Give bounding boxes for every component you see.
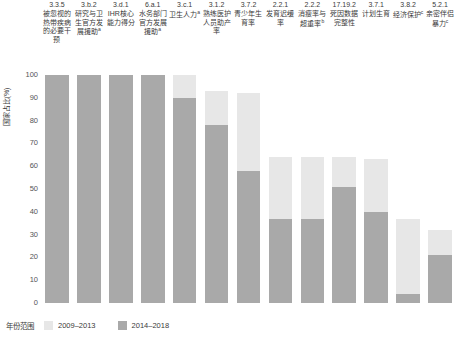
bar-column[interactable]: [45, 75, 69, 303]
category-label: 卫生人力a: [169, 10, 201, 20]
y-axis-tick: 20: [14, 253, 38, 261]
bar-column[interactable]: [332, 75, 356, 303]
category-label: 青少年生育率: [233, 10, 265, 27]
category-header[interactable]: 3.c.1卫生人力a: [169, 0, 201, 20]
y-axis-tick-labels: 1009080706050403020100: [14, 69, 38, 309]
category-header[interactable]: 3.d.1IHR核心能力得分: [105, 0, 137, 27]
y-axis-tick: 90: [14, 94, 38, 102]
category-code: 3.b.2: [73, 0, 105, 9]
category-code: 3.8.2: [392, 0, 424, 9]
bar-segment-2014-2018: [428, 255, 452, 303]
category-code: 3.7.1: [360, 0, 392, 9]
bar-column[interactable]: [269, 75, 293, 303]
bar-column[interactable]: [173, 75, 197, 303]
category-label: 水务部门官方发展援助a: [137, 10, 169, 37]
category-header[interactable]: 3.8.2经济保护c: [392, 0, 424, 20]
category-header[interactable]: 5.2.1亲密伴侣暴力c: [424, 0, 456, 29]
legend-swatch-late-icon: [118, 321, 127, 330]
legend: 年份范围 2009–2013 2014–2018: [6, 318, 191, 332]
bar-segment-2014-2018: [396, 294, 420, 303]
category-header[interactable]: 6.a.1水务部门官方发展援助a: [137, 0, 169, 37]
category-label: 发育迟缓率: [264, 10, 296, 27]
bar-column[interactable]: [141, 75, 165, 303]
bar-segment-2014-2018: [173, 98, 197, 303]
bar-segment-2014-2018: [269, 219, 293, 303]
category-label: IHR核心能力得分: [105, 10, 137, 27]
bar-segment-2009-2013: [332, 157, 356, 187]
bar-segment-2014-2018: [237, 171, 261, 303]
bar-segment-2009-2013: [237, 93, 261, 171]
footnote-marker: a: [98, 26, 101, 32]
legend-swatch-early-icon: [44, 321, 53, 330]
category-code: 5.2.1: [424, 0, 456, 9]
category-code: 3.c.1: [169, 0, 201, 9]
y-axis-tick: 30: [14, 231, 38, 239]
bar-segment-2009-2013: [173, 75, 197, 98]
category-code: 3.7.2: [233, 0, 265, 9]
category-code: 3.1.2: [201, 0, 233, 9]
category-code: 3.d.1: [105, 0, 137, 9]
y-axis-tick: 80: [14, 117, 38, 125]
category-header[interactable]: 17.19.2死因数据完整性: [328, 0, 360, 27]
legend-item-early[interactable]: 2009–2013: [44, 321, 96, 330]
category-header[interactable]: 3.b.2研究与卫生官方发展援助a: [73, 0, 105, 37]
bar-segment-2009-2013: [428, 230, 452, 255]
y-axis-tick: 100: [14, 71, 38, 79]
y-axis-tick: 60: [14, 162, 38, 170]
category-header[interactable]: 3.1.2熟练医护人员助产率: [201, 0, 233, 36]
category-header[interactable]: 2.2.1发育迟缓率: [264, 0, 296, 27]
footnote-marker: c: [446, 18, 449, 24]
footnote-marker: b: [321, 18, 324, 24]
category-label: 研究与卫生官方发展援助a: [73, 10, 105, 37]
category-header[interactable]: 2.2.2消瘦率与超重率b: [296, 0, 328, 29]
bar-segment-2014-2018: [332, 187, 356, 303]
category-header[interactable]: 3.7.2青少年生育率: [233, 0, 265, 27]
category-label: 消瘦率与超重率b: [296, 10, 328, 29]
bar-segment-2009-2013: [301, 157, 325, 219]
legend-item-late[interactable]: 2014–2018: [118, 321, 170, 330]
category-headers: 3.3.5被忽视的热带疾病的必要干预3.b.2研究与卫生官方发展援助a3.d.1…: [41, 0, 456, 73]
category-code: 17.19.2: [328, 0, 360, 9]
bar-segment-2009-2013: [269, 157, 293, 219]
category-code: 6.a.1: [137, 0, 169, 9]
category-label: 被忽视的热带疾病的必要干预: [41, 10, 73, 44]
bar-column[interactable]: [77, 75, 101, 303]
y-axis-tick: 0: [14, 299, 38, 307]
bar-column[interactable]: [428, 75, 452, 303]
bar-column[interactable]: [396, 75, 420, 303]
footnote-marker: a: [158, 26, 161, 32]
legend-label-early: 2009–2013: [58, 321, 96, 330]
bar-segment-2014-2018: [45, 75, 69, 303]
category-label: 计划生育: [360, 10, 392, 19]
bar-segment-2014-2018: [205, 125, 229, 303]
bar-segment-2014-2018: [301, 219, 325, 303]
category-code: 2.2.2: [296, 0, 328, 9]
category-code: 2.2.1: [264, 0, 296, 9]
legend-title: 年份范围: [6, 320, 34, 331]
bar-segment-2009-2013: [364, 159, 388, 211]
bar-segment-2014-2018: [77, 75, 101, 303]
bar-column[interactable]: [205, 75, 229, 303]
category-header[interactable]: 3.7.1计划生育: [360, 0, 392, 19]
bar-segment-2014-2018: [364, 212, 388, 303]
y-axis-tick: 40: [14, 208, 38, 216]
bar-segment-2014-2018: [109, 75, 133, 303]
category-header[interactable]: 3.3.5被忽视的热带疾病的必要干预: [41, 0, 73, 44]
y-axis-tick: 10: [14, 276, 38, 284]
bar-segment-2014-2018: [141, 75, 165, 303]
stacked-bar-chart: 国家占比(%) 1009080706050403020100 3.3.5被忽视的…: [0, 0, 456, 340]
footnote-marker: c: [421, 9, 424, 15]
y-axis-title: 国家占比(%): [1, 52, 13, 162]
y-axis-tick: 70: [14, 139, 38, 147]
bar-segment-2009-2013: [396, 219, 420, 294]
bar-column[interactable]: [109, 75, 133, 303]
bar-column[interactable]: [237, 75, 261, 303]
category-label: 熟练医护人员助产率: [201, 10, 233, 36]
bar-column[interactable]: [364, 75, 388, 303]
category-label: 死因数据完整性: [328, 10, 360, 27]
category-label: 亲密伴侣暴力c: [424, 10, 456, 29]
category-label: 经济保护c: [392, 10, 424, 20]
plot-area: [41, 75, 456, 303]
bar-column[interactable]: [301, 75, 325, 303]
y-axis-tick: 50: [14, 185, 38, 193]
